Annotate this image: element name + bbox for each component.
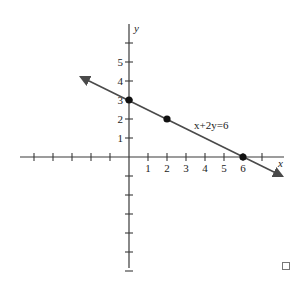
- equation-label: x+2y=6: [194, 119, 229, 131]
- y-tick-labels: 12345: [118, 56, 124, 144]
- x-tick-label: 3: [183, 162, 189, 174]
- x-tick-label: 5: [221, 162, 227, 174]
- y-axis-label: y: [133, 22, 139, 34]
- data-point: [163, 115, 170, 122]
- x-tick-labels: 123456: [145, 162, 246, 174]
- data-point: [239, 153, 246, 160]
- x-axis-label: x: [277, 157, 283, 169]
- data-point: [125, 96, 132, 103]
- y-tick-label: 5: [118, 56, 124, 68]
- line-x-plus-2y-equals-6: [81, 77, 282, 176]
- x-tick-label: 4: [202, 162, 208, 174]
- y-tick-label: 1: [118, 132, 124, 144]
- x-tick-label: 1: [145, 162, 151, 174]
- x-tick-label: 6: [240, 162, 246, 174]
- coordinate-plane: 123456 12345 x y x+2y=6: [0, 0, 306, 287]
- checkbox[interactable]: [282, 262, 290, 270]
- x-tick-label: 2: [164, 162, 170, 174]
- y-tick-label: 4: [118, 75, 124, 87]
- y-tick-label: 2: [118, 113, 124, 125]
